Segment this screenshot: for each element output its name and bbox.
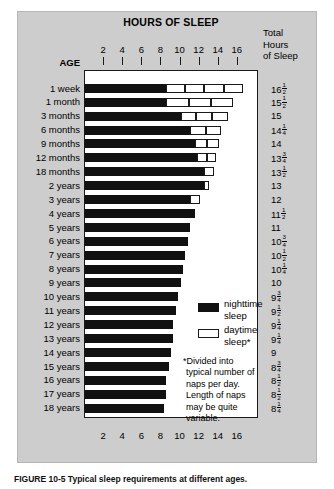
fraction: 12 (282, 248, 286, 261)
nighttime-sleep-bar (85, 84, 166, 93)
nighttime-sleep-bar (85, 320, 173, 329)
x-tick-label: 2 (100, 430, 105, 441)
daytime-nap-segment (190, 126, 206, 135)
daytime-nap-segment (204, 181, 209, 190)
total-hours-value: 14 (271, 137, 282, 151)
x-tick-mark (218, 57, 219, 65)
fraction: 12 (282, 95, 286, 108)
chart-row: 9 months14 (0, 137, 334, 151)
stacked-bar (85, 139, 219, 148)
chart-row: 14 years9 (0, 346, 334, 360)
stacked-bar (85, 112, 228, 121)
figure-caption: FIGURE 10-5 Typical sleep requirements a… (14, 474, 334, 489)
chart-row: 1 week1612 (0, 82, 334, 96)
stacked-bar (85, 320, 173, 329)
x-axis-bottom: 246810121416 (84, 420, 258, 442)
x-tick-label: 12 (193, 44, 204, 55)
nighttime-sleep-bar (85, 348, 171, 357)
chart-row: 4 years1112 (0, 207, 334, 221)
nighttime-sleep-bar (85, 195, 190, 204)
chart-row: 17 years812 (0, 387, 334, 401)
daytime-nap-segment (211, 98, 233, 107)
nighttime-sleep-bar (85, 153, 197, 162)
stacked-bar (85, 404, 164, 413)
daytime-swatch-icon (198, 329, 219, 338)
x-tick-mark (160, 57, 161, 65)
x-tick-label: 8 (158, 430, 163, 441)
nighttime-sleep-bar (85, 376, 166, 385)
fraction: 12 (281, 207, 285, 220)
daytime-nap-segment (185, 84, 204, 93)
daytime-nap-segment (166, 98, 188, 107)
nighttime-sleep-bar (85, 390, 166, 399)
stacked-bar (85, 98, 233, 107)
total-hours-value: 1112 (271, 207, 286, 222)
total-hours-value: 814 (271, 401, 281, 416)
nighttime-sleep-bar (85, 167, 204, 176)
daytime-nap-segment (207, 139, 219, 148)
age-label: 5 years (22, 221, 80, 235)
nighttime-sleep-bar (85, 209, 195, 218)
age-label: 7 years (22, 248, 80, 262)
chart-row: 5 years11 (0, 221, 334, 235)
stacked-bar (85, 376, 166, 385)
total-header-line-1: Total (263, 27, 323, 39)
stacked-bar (85, 278, 181, 287)
x-tick-mark (141, 57, 142, 65)
daytime-nap-segment (224, 84, 243, 93)
age-label: 1 week (22, 82, 80, 96)
nighttime-sleep-bar (85, 278, 181, 287)
stacked-bar (85, 153, 216, 162)
stacked-bar (85, 181, 209, 190)
stacked-bar (85, 251, 185, 260)
age-label: 18 months (22, 165, 80, 179)
age-label: 11 years (22, 304, 80, 318)
total-hours-value: 1014 (271, 262, 287, 277)
age-label: 3 months (22, 109, 80, 123)
chart-row: 16 years812 (0, 373, 334, 387)
total-hours-value: 10 (271, 276, 282, 290)
daytime-nap-segment (204, 84, 223, 93)
nighttime-sleep-bar (85, 223, 190, 232)
nighttime-sleep-bar (85, 112, 181, 121)
stacked-bar (85, 292, 178, 301)
age-label: 10 years (22, 290, 80, 304)
legend: nighttime sleep daytime sleep* (198, 301, 260, 353)
x-tick-label: 2 (100, 44, 105, 55)
age-label: 13 years (22, 332, 80, 346)
total-hours-value: 15 (271, 109, 282, 123)
x-tick-mark (103, 57, 104, 65)
total-hours-value: 12 (271, 193, 282, 207)
fraction: 12 (277, 373, 281, 386)
daytime-nap-segment (181, 112, 197, 121)
nighttime-sleep-bar (85, 98, 166, 107)
chart-row: 9 years10 (0, 276, 334, 290)
age-label: 15 years (22, 360, 80, 374)
daytime-nap-segment (189, 98, 211, 107)
stacked-bar (85, 306, 176, 315)
daytime-nap-segment (212, 112, 228, 121)
nighttime-sleep-bar (85, 292, 178, 301)
stacked-bar (85, 348, 171, 357)
daytime-nap-segment (197, 153, 207, 162)
x-tick-label: 14 (212, 430, 223, 441)
x-tick-label: 4 (120, 44, 125, 55)
stacked-bar (85, 223, 190, 232)
fraction: 12 (282, 165, 286, 178)
stacked-bar (85, 195, 200, 204)
daytime-nap-segment (204, 167, 214, 176)
daytime-nap-segment (190, 195, 200, 204)
daytime-nap-segment (195, 139, 207, 148)
chart-row: 3 months15 (0, 109, 334, 123)
age-label: 6 years (22, 234, 80, 248)
stacked-bar (85, 126, 221, 135)
legend-item-daytime: daytime sleep* (198, 327, 260, 353)
age-label: 4 years (22, 207, 80, 221)
age-label: 6 months (22, 123, 80, 137)
chart-row: 2 years13 (0, 179, 334, 193)
x-axis-top: 246810121416 (84, 44, 258, 66)
daytime-nap-segment (196, 112, 212, 121)
chart-row: 6 months1414 (0, 123, 334, 137)
daytime-nap-segment (166, 84, 185, 93)
total-hours-value: 1312 (271, 165, 287, 180)
